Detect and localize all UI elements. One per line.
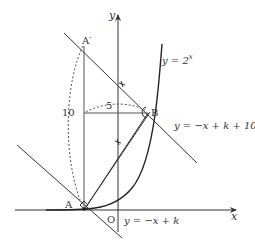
- dashed-arc-vertical: [68, 46, 83, 200]
- angle-mark-b2: [142, 113, 146, 118]
- point-a-label: A: [64, 199, 73, 210]
- point-b-label: B: [151, 107, 158, 118]
- origin-label: O: [107, 214, 115, 225]
- diagram: y x O A′ A B 10 5 y = 2x y = −x + k + 10…: [0, 0, 255, 246]
- measure-10-label: 10: [62, 107, 75, 118]
- segment-a-b-ext: [84, 112, 150, 210]
- x-axis-label: x: [231, 210, 238, 223]
- line-upper-label: y = −x + k + 10: [173, 120, 255, 131]
- dashed-arc-horizontal: [86, 104, 145, 112]
- line-lower-label: y = −x + k: [123, 215, 179, 226]
- point-a-prime-label: A′: [81, 35, 92, 46]
- y-axis-label: y: [108, 9, 116, 22]
- measure-5-label: 5: [106, 100, 112, 111]
- curve-label: y = 2x: [161, 53, 193, 66]
- equal-mark-upper: [119, 81, 125, 87]
- exponential-curve: [46, 44, 162, 210]
- point-a-dot: [82, 207, 86, 211]
